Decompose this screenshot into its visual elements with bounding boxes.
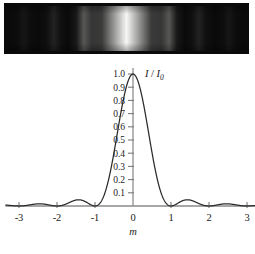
x-axis-tick-labels: -3-2-10123 <box>15 212 250 223</box>
y-axis-title: I/I0 <box>144 68 164 82</box>
x-tick-label: 1 <box>168 212 173 223</box>
y-tick-label: 0.7 <box>113 109 125 119</box>
x-tick-label: 0 <box>130 212 135 223</box>
intensity-plot: 0.10.20.30.40.50.60.70.80.91.0 -3-2-1012… <box>0 58 255 254</box>
x-axis-title: m <box>129 226 137 237</box>
x-tick-label: -3 <box>15 212 24 223</box>
diffraction-photograph-image <box>7 6 246 51</box>
y-tick-label: 0.9 <box>113 83 125 93</box>
x-tick-label: 3 <box>244 212 249 223</box>
x-tick-label: -1 <box>91 212 100 223</box>
y-tick-label: 1.0 <box>113 69 125 79</box>
y-tick-label: 0.3 <box>113 162 125 172</box>
diffraction-photograph <box>4 3 249 54</box>
y-axis-tick-labels: 0.10.20.30.40.50.60.70.80.91.0 <box>113 69 125 198</box>
x-tick-label: 2 <box>206 212 211 223</box>
y-tick-label: 0.1 <box>113 188 125 198</box>
single-slit-diffraction-figure: 0.10.20.30.40.50.60.70.80.91.0 -3-2-1012… <box>0 0 255 254</box>
y-tick-label: 0.2 <box>113 175 125 185</box>
photo-vignette <box>7 6 246 51</box>
x-tick-label: -2 <box>53 212 62 223</box>
